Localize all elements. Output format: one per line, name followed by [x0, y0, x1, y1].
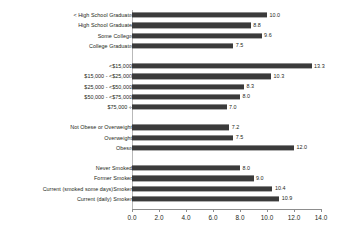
bar-container: 12.0	[132, 145, 294, 150]
x-axis-tick-label: 6.0	[208, 214, 217, 222]
bar-value-label: 7.0	[229, 104, 237, 110]
x-axis-tick-label: 12.0	[288, 214, 301, 222]
y-axis-tick	[129, 148, 132, 149]
x-axis-tick	[186, 209, 187, 212]
y-axis-tick	[129, 77, 132, 78]
bar-container: 13.3	[132, 64, 312, 69]
x-axis-tick	[267, 209, 268, 212]
bar-value-label: 7.5	[236, 135, 244, 141]
bar-row: Former Smoker9.0	[0, 173, 345, 183]
bar-value-label: 7.2	[232, 124, 240, 130]
bar	[132, 94, 240, 99]
y-axis-tick	[129, 36, 132, 37]
y-axis-tick	[129, 107, 132, 108]
bar-row: $25,000 - <$50,0008.3	[0, 82, 345, 92]
bar-container: 8.0	[132, 94, 240, 99]
bar-container: 9.6	[132, 33, 262, 38]
x-axis-tick	[132, 209, 133, 212]
bar-row: Not Obese or Overweight7.2	[0, 122, 345, 132]
bar-value-label: 12.0	[297, 145, 308, 151]
bar	[132, 43, 233, 48]
bar-chart: < High School Graduate10.0High School Gr…	[0, 0, 345, 236]
y-axis-tick	[129, 138, 132, 139]
category-label: Never Smoked	[96, 165, 132, 171]
bar	[132, 23, 251, 28]
bar	[132, 84, 244, 89]
bar	[132, 135, 233, 140]
y-axis-tick	[129, 15, 132, 16]
category-label: Former Smoker	[94, 175, 132, 181]
bar-row: Some College9.6	[0, 31, 345, 41]
x-axis-tick	[321, 209, 322, 212]
bar-container: 10.4	[132, 186, 272, 191]
bar	[132, 74, 271, 79]
y-axis-tick	[129, 189, 132, 190]
bar-value-label: 7.5	[236, 43, 244, 49]
bar-container: 10.0	[132, 13, 267, 18]
bar-container: 8.8	[132, 23, 251, 28]
bar-row: Overweight7.5	[0, 133, 345, 143]
x-axis-tick	[213, 209, 214, 212]
y-axis-tick	[129, 179, 132, 180]
bar-container: 8.3	[132, 84, 244, 89]
x-axis-tick-label: 0.0	[127, 214, 136, 222]
bar	[132, 64, 312, 69]
bar	[132, 145, 294, 150]
bar-row: High School Graduate8.8	[0, 20, 345, 30]
x-axis-line	[132, 209, 321, 210]
bar-container: 8.0	[132, 166, 240, 171]
x-axis-tick	[240, 209, 241, 212]
category-label: Current (smoked some days)Smoker	[43, 186, 132, 192]
bar-row: Never Smoked8.0	[0, 163, 345, 173]
bar-row: Current (daily) Smoker10.9	[0, 194, 345, 204]
y-axis-tick	[129, 97, 132, 98]
y-axis-tick	[129, 128, 132, 129]
y-axis-tick	[129, 168, 132, 169]
bar-container: 7.5	[132, 135, 233, 140]
group-spacer-row	[0, 51, 345, 61]
bar-value-label: 8.0	[243, 165, 251, 171]
category-label: Some College	[98, 33, 132, 39]
bar-row: <$15,00013.3	[0, 61, 345, 71]
group-spacer-row	[0, 153, 345, 163]
bar-row: Current (smoked some days)Smoker10.4	[0, 184, 345, 194]
x-axis-tick-label: 2.0	[154, 214, 163, 222]
bar-value-label: 8.0	[243, 94, 251, 100]
group-spacer-row	[0, 112, 345, 122]
bar-value-label: 10.0	[270, 12, 281, 18]
category-label: Overweight	[104, 135, 132, 141]
y-axis-tick	[129, 66, 132, 67]
x-axis-tick	[159, 209, 160, 212]
category-label: $25,000 - <$50,000	[84, 84, 132, 90]
bar-value-label: 8.3	[247, 84, 255, 90]
y-axis-tick	[129, 199, 132, 200]
y-axis-tick	[129, 46, 132, 47]
bar	[132, 125, 229, 130]
bar-container: 7.2	[132, 125, 229, 130]
bar-value-label: 8.8	[253, 22, 261, 28]
category-label: $15,000 - <$25,000	[84, 73, 132, 79]
bar	[132, 196, 279, 201]
x-axis-tick	[294, 209, 295, 212]
bar	[132, 105, 227, 110]
bar	[132, 33, 262, 38]
x-axis-tick-label: 14.0	[315, 214, 328, 222]
bar-container: 7.5	[132, 43, 233, 48]
bar-row: College Graduate7.5	[0, 41, 345, 51]
x-axis-tick-label: 8.0	[235, 214, 244, 222]
bar-container: 10.9	[132, 196, 279, 201]
bar-container: 7.0	[132, 105, 227, 110]
bar-container: 10.3	[132, 74, 271, 79]
bar	[132, 176, 254, 181]
category-label: Current (daily) Smoker	[77, 196, 132, 202]
x-axis-tick-label: 4.0	[181, 214, 190, 222]
bar-container: 9.0	[132, 176, 254, 181]
bar	[132, 186, 272, 191]
bar-row: $15,000 - <$25,00010.3	[0, 71, 345, 81]
x-axis-tick-label: 10.0	[261, 214, 274, 222]
category-label: High School Graduate	[78, 22, 132, 28]
bar-row: Obese12.0	[0, 143, 345, 153]
y-axis-tick	[129, 26, 132, 27]
bar-row: $75,000 +7.0	[0, 102, 345, 112]
bar-value-label: 10.4	[275, 186, 286, 192]
